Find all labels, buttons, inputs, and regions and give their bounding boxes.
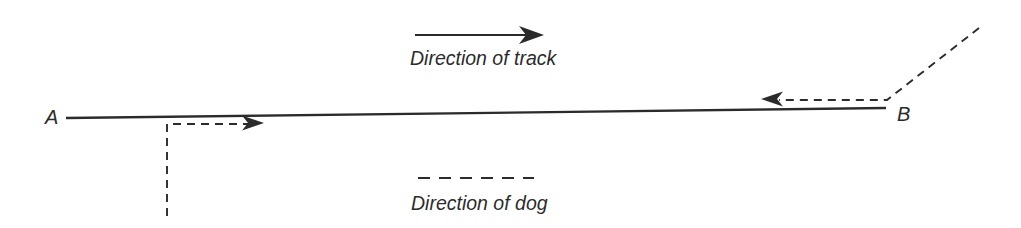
dog-path-near-b-arrowhead-icon [761, 92, 783, 107]
point-a-label: A [44, 106, 58, 128]
dog-path-near-b [761, 28, 979, 107]
track-direction-arrow [415, 26, 544, 44]
dog-path-near-a-arrowhead-icon [242, 116, 264, 131]
dog-path-near-a [167, 116, 264, 217]
track-and-dog-diagram: A B Direction of track Direction of dog [0, 0, 1021, 228]
dog-path-near-b-line [779, 28, 979, 100]
track-direction-label: Direction of track [410, 47, 558, 69]
track-line [66, 108, 886, 118]
dog-direction-label: Direction of dog [411, 192, 548, 214]
point-b-label: B [897, 103, 910, 125]
dog-path-near-a-line [167, 124, 248, 216]
diagram-canvas: A B Direction of track Direction of dog [0, 0, 1021, 228]
